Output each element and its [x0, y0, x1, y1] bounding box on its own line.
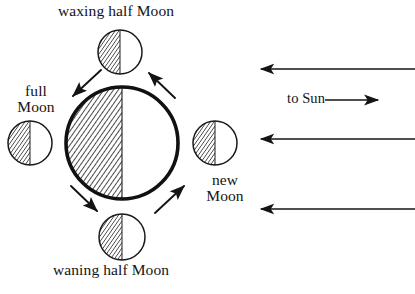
label-new-moon: new Moon — [196, 172, 254, 205]
moon-lit-half — [30, 121, 52, 165]
moon-shaded-half — [8, 121, 30, 165]
moon-shaded-half — [193, 121, 215, 165]
moon-waning-half — [99, 214, 145, 260]
moon-waxing-half — [98, 30, 142, 74]
moon-new — [193, 121, 237, 165]
moon-lit-half — [215, 121, 237, 165]
label-waning-half-moon: waning half Moon — [53, 262, 169, 278]
moon-phases-diagram: waxing half Moon waning half Moon full M… — [0, 0, 415, 294]
earth-lit-half — [122, 87, 178, 199]
orbit-arrow-bottom-right — [155, 186, 184, 213]
earth — [66, 87, 178, 199]
label-waxing-half-moon: waxing half Moon — [58, 3, 174, 19]
moon-shaded-half — [99, 214, 122, 260]
moon-shaded-half — [98, 30, 120, 74]
diagram-canvas — [0, 0, 415, 294]
label-to-sun: to Sun — [287, 91, 325, 106]
sunlight-rays — [261, 69, 415, 209]
earth-shaded-half — [66, 87, 122, 199]
moon-lit-half — [120, 30, 142, 74]
moon-lit-half — [122, 214, 145, 260]
moon-full — [8, 121, 52, 165]
label-full-moon: full Moon — [8, 83, 64, 116]
